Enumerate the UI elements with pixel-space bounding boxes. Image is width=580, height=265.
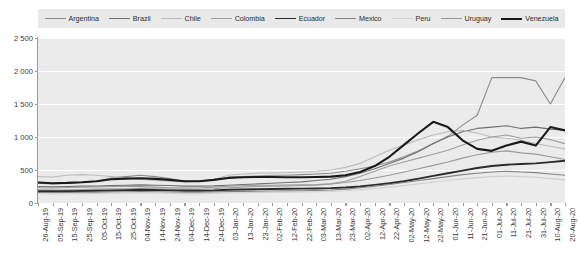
- legend-label: Chile: [185, 14, 201, 23]
- x-axis-tick-mark: [228, 203, 229, 206]
- plot-area: [38, 38, 565, 203]
- series-line-argentina: [38, 78, 565, 184]
- legend-item-chile[interactable]: Chile: [161, 14, 201, 23]
- x-axis-tick-label: 02-Feb-20: [275, 208, 284, 241]
- y-axis-tick-label: 1 000: [14, 133, 33, 142]
- x-axis-tick-label: 23-Jan-20: [261, 208, 270, 240]
- x-axis-tick-label: 15-Sep-19: [70, 208, 79, 242]
- chart-legend: ArgentinaBrazilChileColombiaEcuadorMexic…: [38, 9, 565, 28]
- x-axis-tick-mark: [536, 203, 537, 206]
- x-axis-tick-mark: [199, 203, 200, 206]
- y-axis-tick-mark: [35, 38, 38, 39]
- y-axis-tick-mark: [35, 71, 38, 72]
- x-axis-tick-label: 12-Apr-20: [378, 208, 387, 240]
- x-axis-tick-label: 22-Feb-20: [305, 208, 314, 241]
- legend-swatch-icon: [161, 18, 182, 19]
- x-axis-tick-label: 04-Nov-19: [143, 208, 152, 242]
- x-axis-tick-mark: [97, 203, 98, 206]
- y-axis-tick-mark: [35, 104, 38, 105]
- x-axis-tick-mark: [53, 203, 54, 206]
- chart-container: ArgentinaBrazilChileColombiaEcuadorMexic…: [0, 0, 580, 265]
- x-axis-tick-label: 22-May-20: [436, 208, 445, 242]
- line-chart-svg: [38, 38, 565, 203]
- series-line-venezuela: [38, 122, 565, 183]
- y-axis-tick-mark: [35, 203, 38, 204]
- x-axis-tick-label: 03-Jan-20: [231, 208, 240, 240]
- x-axis-tick-mark: [550, 203, 551, 206]
- legend-item-uruguay[interactable]: Uruguay: [441, 14, 492, 23]
- y-axis-tick-label: 0: [29, 199, 33, 208]
- x-axis-tick-mark: [82, 203, 83, 206]
- legend-item-venezuela[interactable]: Venezuela: [501, 14, 558, 23]
- legend-item-ecuador[interactable]: Ecuador: [275, 14, 325, 23]
- legend-label: Argentina: [69, 14, 99, 23]
- x-axis-tick-label: 20-Aug-20: [568, 208, 577, 242]
- x-axis-tick-mark: [214, 203, 215, 206]
- x-axis-tick-mark: [448, 203, 449, 206]
- x-axis-tick-label: 12-May-20: [422, 208, 431, 242]
- legend-item-brazil[interactable]: Brazil: [109, 14, 151, 23]
- x-axis-tick-label: 25-Sep-19: [85, 208, 94, 242]
- x-axis-tick-mark: [389, 203, 390, 206]
- y-axis-tick-mark: [35, 137, 38, 138]
- x-axis-tick-label: 21-Jun-20: [480, 208, 489, 240]
- x-axis-tick-label: 26-Aug-19: [41, 208, 50, 242]
- series-line-uruguay: [38, 151, 565, 188]
- y-axis-tick-label: 2 500: [14, 34, 33, 43]
- x-axis-tick-mark: [67, 203, 68, 206]
- x-axis-tick-mark: [565, 203, 566, 206]
- x-axis-tick-mark: [258, 203, 259, 206]
- legend-item-colombia[interactable]: Colombia: [211, 14, 265, 23]
- x-axis-tick-mark: [287, 203, 288, 206]
- x-axis-tick-label: 11-Jun-20: [466, 208, 475, 240]
- legend-swatch-icon: [392, 18, 413, 19]
- x-axis-tick-label: 01-Jul-20: [495, 208, 504, 238]
- x-axis-tick-mark: [140, 203, 141, 206]
- legend-swatch-icon: [501, 18, 522, 20]
- x-axis-tick-mark: [170, 203, 171, 206]
- legend-label: Ecuador: [299, 14, 325, 23]
- legend-label: Peru: [416, 14, 431, 23]
- y-axis-labels: 05001 0001 5002 0002 500: [0, 0, 33, 265]
- x-axis-tick-label: 01-Jun-20: [451, 208, 460, 240]
- x-axis-tick-label: 10-Aug-20: [553, 208, 562, 242]
- x-axis-tick-mark: [404, 203, 405, 206]
- x-axis-tick-label: 12-Feb-20: [290, 208, 299, 241]
- x-axis-tick-mark: [302, 203, 303, 206]
- x-axis-tick-mark: [345, 203, 346, 206]
- legend-item-mexico[interactable]: Mexico: [335, 14, 381, 23]
- x-axis-tick-label: 13-Mar-20: [334, 208, 343, 241]
- y-axis-tick-label: 500: [20, 166, 33, 175]
- x-axis-tick-label: 02-May-20: [407, 208, 416, 242]
- x-axis-tick-label: 13-Jan-20: [246, 208, 255, 240]
- legend-label: Colombia: [235, 14, 265, 23]
- legend-swatch-icon: [441, 18, 462, 19]
- legend-label: Venezuela: [525, 14, 558, 23]
- legend-swatch-icon: [335, 18, 356, 19]
- x-axis-tick-label: 04-Dec-19: [187, 208, 196, 242]
- x-axis-tick-mark: [316, 203, 317, 206]
- x-axis-tick-mark: [492, 203, 493, 206]
- y-axis-tick-label: 2 000: [14, 67, 33, 76]
- x-axis-tick-label: 24-Nov-19: [173, 208, 182, 242]
- y-axis-tick-mark: [35, 170, 38, 171]
- x-axis-tick-mark: [506, 203, 507, 206]
- x-axis-tick-label: 14-Dec-19: [202, 208, 211, 242]
- x-axis-tick-mark: [433, 203, 434, 206]
- x-axis-tick-mark: [521, 203, 522, 206]
- x-axis-tick-mark: [184, 203, 185, 206]
- x-axis-tick-mark: [419, 203, 420, 206]
- x-axis-tick-mark: [38, 203, 39, 206]
- legend-swatch-icon: [275, 18, 296, 19]
- x-axis-tick-label: 05-Sep-19: [56, 208, 65, 242]
- legend-item-argentina[interactable]: Argentina: [45, 14, 99, 23]
- x-axis-labels: 26-Aug-1905-Sep-1915-Sep-1925-Sep-1905-O…: [38, 203, 565, 265]
- x-axis-tick-mark: [155, 203, 156, 206]
- x-axis-tick-mark: [375, 203, 376, 206]
- x-axis-tick-label: 24-Dec-19: [217, 208, 226, 242]
- legend-item-peru[interactable]: Peru: [392, 14, 431, 23]
- x-axis-tick-label: 11-Jul-20: [509, 208, 518, 237]
- x-axis-tick-mark: [331, 203, 332, 206]
- x-axis-tick-mark: [463, 203, 464, 206]
- y-axis-tick-label: 1 500: [14, 100, 33, 109]
